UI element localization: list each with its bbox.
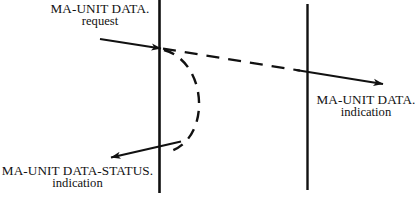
propagation-dashed-segment	[163, 49, 300, 71]
label-indication-line2: indication	[315, 106, 417, 119]
label-ma-unit-data-request: MA-UNIT DATA. request	[45, 2, 155, 28]
label-data-status-line2: indication	[1, 177, 154, 190]
status-arc	[164, 50, 199, 152]
label-ma-unit-data-indication: MA-UNIT DATA. indication	[315, 93, 417, 119]
request-arrow	[100, 39, 161, 48]
status-indication-arrow	[111, 142, 181, 158]
diagram-canvas: MA-UNIT DATA. request MA-UNIT DATA-STATU…	[0, 0, 418, 200]
data-indication-arrow	[296, 70, 383, 84]
label-ma-unit-data-status-indication: MA-UNIT DATA-STATUS. indication	[1, 164, 154, 190]
label-request-line2: request	[45, 15, 155, 28]
